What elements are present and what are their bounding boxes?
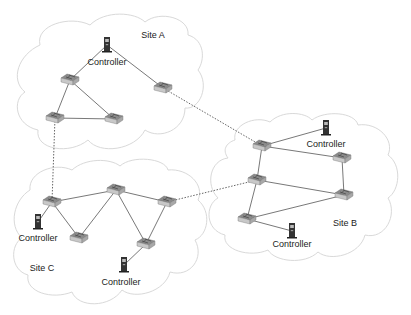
diagram-canvas [0, 0, 411, 315]
site-label-b: Site B [333, 218, 357, 228]
controller-label: Controller [87, 57, 126, 67]
controller-label: Controller [306, 139, 345, 149]
controller-label: Controller [101, 277, 140, 287]
controller-label: Controller [18, 233, 57, 243]
site-label-c: Site C [30, 263, 55, 273]
controller-label: Controller [272, 239, 311, 249]
site-label-a: Site A [141, 30, 165, 40]
network-diagram: ControllerControllerControllerController… [0, 0, 411, 315]
cloud-site-a [17, 14, 203, 149]
